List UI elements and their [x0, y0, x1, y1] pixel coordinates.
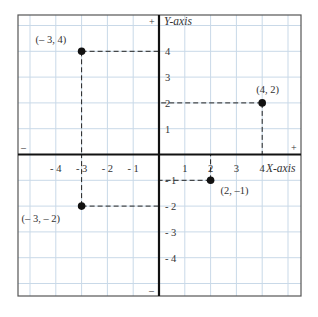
point-label: (– 3, 4) [36, 34, 67, 46]
x-tick-label: 4 [260, 163, 266, 174]
x-negative-sign: – [20, 142, 27, 153]
point-marker [207, 177, 215, 185]
x-positive-sign: + [291, 142, 297, 153]
y-tick-label: - 2 [165, 201, 176, 212]
y-tick-label: - 1 [165, 175, 176, 186]
point-marker [78, 48, 86, 56]
x-tick-label: 3 [234, 163, 239, 174]
y-tick-label: 1 [165, 124, 170, 135]
y-tick-label: 2 [165, 98, 170, 109]
point-marker [258, 99, 266, 107]
y-negative-sign: – [148, 285, 155, 296]
x-tick-label: - 4 [50, 163, 62, 174]
x-tick-label: 2 [208, 163, 213, 174]
point-label: (2, –1) [221, 185, 249, 197]
point-marker [78, 202, 86, 210]
point-label: (– 3, – 2) [22, 213, 61, 225]
x-tick-label: - 1 [128, 163, 139, 174]
x-tick-label: 1 [182, 163, 187, 174]
plotted-points: (– 3, 4)(4, 2)(2, –1)(– 3, – 2) [22, 34, 280, 225]
y-tick-label: - 4 [165, 253, 177, 264]
x-axis-label: X-axis [265, 162, 296, 174]
x-tick-label: - 3 [76, 163, 87, 174]
point-label: (4, 2) [256, 84, 279, 96]
y-tick-label: 4 [165, 46, 171, 57]
coordinate-plane: - 4- 3- 2- 112344321- 1- 2- 3- 4 X-axis … [0, 0, 318, 317]
x-tick-label: - 2 [102, 163, 113, 174]
y-tick-label: - 3 [165, 227, 176, 238]
y-positive-sign: + [149, 16, 155, 27]
y-axis-label: Y-axis [164, 15, 192, 27]
y-tick-label: 3 [165, 72, 170, 83]
